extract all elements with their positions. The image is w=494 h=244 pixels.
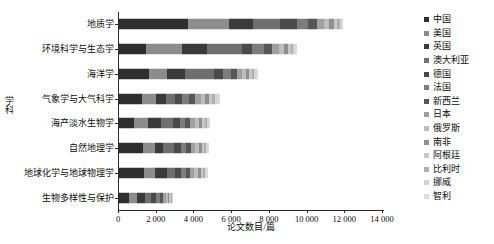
bar-segment[interactable] — [185, 68, 214, 79]
legend-swatch-icon — [424, 167, 429, 172]
bar-segment[interactable] — [208, 143, 209, 154]
bar-segment[interactable] — [149, 68, 167, 79]
bar-segment[interactable] — [206, 167, 207, 178]
legend-item[interactable]: 中国 — [424, 13, 494, 27]
bar-segment[interactable] — [182, 93, 189, 104]
bar-segment[interactable] — [252, 44, 264, 55]
bar-segment[interactable] — [182, 44, 207, 55]
bar-segment[interactable] — [142, 93, 156, 104]
bar-segment[interactable] — [218, 93, 220, 104]
stacked-bar[interactable] — [119, 118, 210, 129]
legend-label: 南非 — [433, 137, 451, 148]
legend-item[interactable]: 美国 — [424, 27, 494, 41]
bar-segment[interactable] — [342, 19, 344, 30]
bar-segment[interactable] — [173, 192, 174, 203]
bar-segment[interactable] — [119, 167, 144, 178]
bar-row: 海产淡水生物学 — [118, 111, 382, 136]
bar-row: 环境科学与生态学 — [118, 37, 382, 62]
bar-segment[interactable] — [317, 19, 324, 30]
legend-item[interactable]: 澳大利亚 — [424, 54, 494, 68]
bar-segment[interactable] — [308, 19, 317, 30]
y-tick — [115, 49, 118, 50]
legend-label: 中国 — [433, 14, 451, 25]
bar-segment[interactable] — [119, 143, 143, 154]
x-tick — [344, 210, 345, 213]
legend-item[interactable]: 新西兰 — [424, 95, 494, 109]
y-tick — [115, 74, 118, 75]
bar-row: 气象学与大气科学 — [118, 86, 382, 111]
bar-segment[interactable] — [253, 19, 280, 30]
legend-label: 挪威 — [433, 177, 451, 188]
bar-segment[interactable] — [295, 44, 297, 55]
bar-segment[interactable] — [214, 68, 223, 79]
stacked-bar[interactable] — [119, 192, 173, 203]
bar-segment[interactable] — [137, 192, 145, 203]
bar-segment[interactable] — [143, 143, 155, 154]
bar-segment[interactable] — [119, 68, 149, 79]
stacked-bar[interactable] — [119, 143, 209, 154]
bar-segment[interactable] — [173, 118, 180, 129]
legend-item[interactable]: 日本 — [424, 108, 494, 122]
bar-segment[interactable] — [134, 118, 148, 129]
bar-segment[interactable] — [163, 143, 175, 154]
category-label: 生物多样性与保护 — [42, 192, 114, 203]
bar-segment[interactable] — [155, 167, 167, 178]
bar-segment[interactable] — [229, 19, 253, 30]
x-tick — [269, 210, 270, 213]
legend-swatch-icon — [424, 44, 429, 49]
category-label: 地球化学与地球物理学 — [24, 167, 114, 178]
bar-segment[interactable] — [144, 167, 155, 178]
bar-segment[interactable] — [223, 68, 231, 79]
x-tick — [156, 210, 157, 213]
stacked-bar[interactable] — [119, 19, 343, 30]
bar-segment[interactable] — [207, 44, 242, 55]
legend-label: 德国 — [433, 69, 451, 80]
legend-swatch-icon — [424, 153, 429, 158]
legend-label: 新西兰 — [433, 96, 460, 107]
legend-label: 英国 — [433, 41, 451, 52]
category-label: 气象学与大气科学 — [42, 93, 114, 104]
bar-segment[interactable] — [297, 19, 308, 30]
stacked-bar[interactable] — [119, 44, 297, 55]
bar-segment[interactable] — [129, 192, 137, 203]
bar-segment[interactable] — [156, 93, 166, 104]
legend-label: 澳大利亚 — [433, 55, 469, 66]
bar-segment[interactable] — [166, 93, 175, 104]
legend-swatch-icon — [424, 85, 429, 90]
bar-segment[interactable] — [119, 118, 134, 129]
bar-segment[interactable] — [209, 118, 211, 129]
bar-segment[interactable] — [175, 93, 183, 104]
legend-item[interactable]: 俄罗斯 — [424, 122, 494, 136]
bar-segment[interactable] — [256, 68, 258, 79]
bar-segment[interactable] — [148, 118, 161, 129]
legend-label: 俄罗斯 — [433, 123, 460, 134]
bar-segment[interactable] — [119, 19, 188, 30]
legend-item[interactable]: 法国 — [424, 81, 494, 95]
legend-item[interactable]: 南非 — [424, 135, 494, 149]
legend-item[interactable]: 阿根廷 — [424, 149, 494, 163]
bar-segment[interactable] — [280, 19, 298, 30]
legend-item[interactable]: 德国 — [424, 67, 494, 81]
bar-segment[interactable] — [119, 192, 129, 203]
bar-segment[interactable] — [167, 167, 175, 178]
bar-segment[interactable] — [119, 93, 142, 104]
bar-segment[interactable] — [167, 68, 185, 79]
bar-segment[interactable] — [155, 143, 163, 154]
x-tick — [307, 210, 308, 213]
stacked-bar[interactable] — [119, 68, 258, 79]
legend-item[interactable]: 挪威 — [424, 176, 494, 190]
legend-item[interactable]: 英国 — [424, 40, 494, 54]
bar-segment[interactable] — [188, 19, 229, 30]
stacked-bar[interactable] — [119, 93, 220, 104]
bar-segment[interactable] — [272, 44, 279, 55]
bar-segment[interactable] — [146, 44, 182, 55]
bar-segment[interactable] — [161, 118, 173, 129]
stacked-bar[interactable] — [119, 167, 208, 178]
bar-segment[interactable] — [119, 44, 146, 55]
category-label: 海洋学 — [87, 68, 114, 79]
legend-item[interactable]: 比利时 — [424, 163, 494, 177]
bar-segment[interactable] — [242, 44, 252, 55]
bar-segment[interactable] — [264, 44, 272, 55]
y-tick — [115, 123, 118, 124]
legend-item[interactable]: 智利 — [424, 190, 494, 204]
